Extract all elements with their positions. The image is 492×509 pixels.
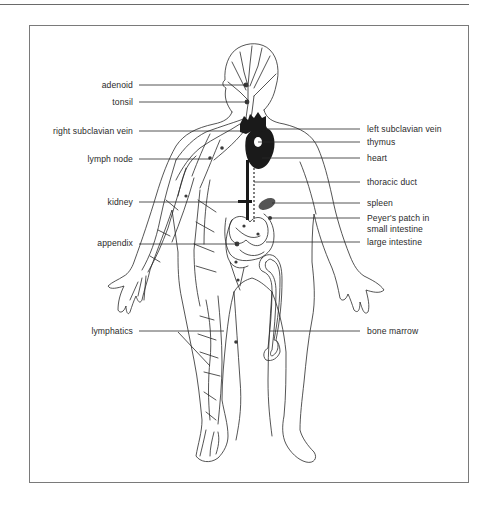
label-bone-marrow: bone marrow xyxy=(367,326,418,336)
body-illustration xyxy=(0,0,492,509)
kidney-marker xyxy=(238,200,252,203)
lymph-node xyxy=(242,224,245,227)
spleen xyxy=(257,196,278,213)
lymph-node xyxy=(256,232,259,235)
torso-outline-left xyxy=(108,112,234,462)
label-thoracic-duct: thoracic duct xyxy=(367,177,417,187)
label-appendix: appendix xyxy=(0,238,133,248)
lymph-node xyxy=(234,340,238,344)
lymph-node xyxy=(234,260,237,263)
kidney-marker-vertical xyxy=(246,196,249,210)
heart xyxy=(245,127,274,169)
label-right-subclavian-vein: right subclavian vein xyxy=(0,126,133,136)
label-spleen: spleen xyxy=(367,198,393,208)
lymph-node xyxy=(184,194,187,197)
label-lymph-node: lymph node xyxy=(0,154,133,164)
label-left-subclavian-vein: left subclavian vein xyxy=(367,124,442,134)
label-lymphatics: lymphatics xyxy=(0,326,133,336)
label-adenoid: adenoid xyxy=(0,80,133,90)
label-large-intestine: large intestine xyxy=(367,237,422,247)
label-heart: heart xyxy=(367,153,387,163)
small-intestine xyxy=(229,216,268,245)
label-kidney: kidney xyxy=(0,197,133,207)
lymph-node xyxy=(236,278,239,281)
label-tonsil: tonsil xyxy=(0,97,133,107)
vena-cava xyxy=(246,160,249,220)
label-thymus: thymus xyxy=(367,137,395,147)
label-peyers-patch-line1: Peyer's patch in xyxy=(367,213,429,223)
lymph-node xyxy=(220,146,224,150)
label-peyers-patch-line2: small intestine xyxy=(367,224,423,234)
